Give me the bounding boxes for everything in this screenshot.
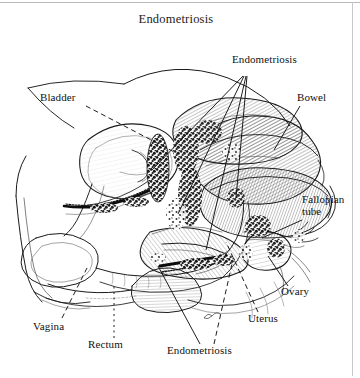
label-ovary: Ovary [281, 286, 309, 298]
label-fallopian-tube: Fallopian tube [302, 194, 354, 217]
label-rectum: Rectum [88, 339, 123, 351]
label-endometriosis-bottom: Endometriosis [167, 345, 232, 357]
endometriosis-figure: Endometriosis [0, 0, 360, 378]
label-fallopian-line1: Fallopian [302, 193, 344, 205]
label-uterus: Uterus [248, 313, 278, 325]
label-endometriosis-top: Endometriosis [232, 54, 297, 66]
label-fallopian-line2: tube [302, 205, 321, 217]
label-vagina: Vagina [33, 321, 64, 333]
label-bowel: Bowel [297, 92, 326, 104]
label-bladder: Bladder [40, 92, 76, 104]
